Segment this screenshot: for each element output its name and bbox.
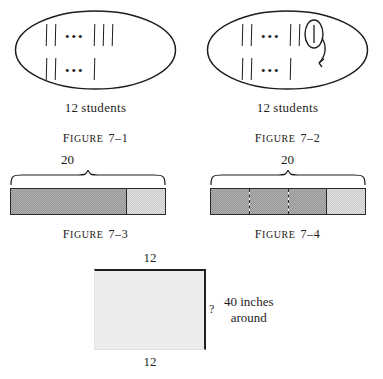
bar-segment-light — [127, 189, 165, 214]
tally-mark — [46, 24, 48, 46]
rect-side-label: ? — [209, 302, 214, 317]
tally-mark — [251, 58, 253, 80]
bar-total-label-4: 20 — [196, 152, 379, 168]
figure-caption-7-1: FIGURE7–1 — [4, 128, 187, 146]
tally-mark — [55, 58, 57, 80]
tally-mark — [93, 58, 95, 80]
perimeter-note: 40 inches around — [224, 294, 273, 326]
ellipse-icon — [4, 6, 187, 94]
figure-7-2: ••• ••• 12students FIGURE7–2 — [196, 2, 379, 152]
ellipsis-dots: ••• — [261, 30, 281, 43]
students-word: students — [273, 100, 318, 115]
caption-number: 7–2 — [301, 131, 321, 145]
bar-rectangle-4 — [210, 188, 366, 215]
figure-caption-7-2: FIGURE7–2 — [196, 128, 379, 146]
caption-initial: F — [255, 131, 262, 145]
perimeter-rectangle-figure: 12 ? 40 inches around 12 — [0, 250, 383, 378]
figure-caption-7-3: FIGURE7–3 — [4, 224, 187, 242]
brace-icon-3 — [10, 170, 166, 186]
caption-initial: F — [255, 227, 262, 241]
tally-mark — [46, 58, 48, 80]
ellipsis-dots: ••• — [65, 30, 85, 43]
perimeter-note-line1: 40 inches — [224, 294, 273, 310]
ellipse-icon — [196, 6, 379, 94]
tally-row-bottom-1: ••• — [42, 58, 99, 80]
bar-segment-light — [327, 189, 365, 214]
tally-mark — [111, 24, 113, 46]
caption-smallcaps: IGURE — [262, 133, 296, 144]
caption-initial: F — [63, 227, 70, 241]
students-label-2: 12students — [196, 100, 379, 116]
students-label-1: 12students — [4, 100, 187, 116]
tally-mark — [242, 24, 244, 46]
tally-mark — [242, 58, 244, 80]
tally-mark — [102, 24, 104, 46]
ellipsis-dots: ••• — [65, 64, 85, 77]
tally-row-top-1: ••• — [42, 24, 117, 46]
textbook-figure-page: ••• ••• 12students FIGURE7–1 — [0, 0, 383, 379]
rect-shape — [94, 269, 206, 350]
caption-number: 7–3 — [109, 227, 129, 241]
perimeter-note-line2: around — [224, 310, 273, 326]
tally-mark — [93, 24, 95, 46]
bar-segment-dark — [11, 189, 126, 214]
ellipse-outline-1 — [4, 6, 187, 94]
caption-number: 7–4 — [301, 227, 321, 241]
caption-number: 7–1 — [109, 131, 129, 145]
caption-smallcaps: IGURE — [70, 229, 104, 240]
students-count: 12 — [65, 100, 79, 115]
caption-smallcaps: IGURE — [70, 133, 104, 144]
tally-mark — [55, 24, 57, 46]
circled-tally-with-arrow — [300, 16, 342, 72]
figure-7-4: 20 FIGURE7–4 — [196, 152, 379, 252]
bar-segment-dark — [289, 189, 327, 214]
tally-row-top-2: ••• — [238, 24, 304, 46]
figure-caption-7-4: FIGURE7–4 — [196, 224, 379, 242]
students-count: 12 — [257, 100, 271, 115]
figure-7-1: ••• ••• 12students FIGURE7–1 — [4, 2, 187, 152]
students-word: students — [81, 100, 126, 115]
caption-initial: F — [63, 131, 70, 145]
rect-bottom-label: 12 — [94, 354, 206, 370]
ellipse-outline-2 — [196, 6, 379, 94]
tally-mark — [289, 24, 291, 46]
ellipsis-dots: ••• — [261, 64, 281, 77]
bar-total-label-3: 20 — [0, 152, 159, 168]
tally-mark — [289, 58, 291, 80]
bar-segment-dark — [250, 189, 288, 214]
bar-rectangle-3 — [10, 188, 166, 215]
rect-top-label: 12 — [94, 250, 206, 266]
tally-mark — [251, 24, 253, 46]
caption-smallcaps: IGURE — [262, 229, 296, 240]
bar-segment-dark — [211, 189, 249, 214]
brace-icon-4 — [210, 170, 366, 186]
tally-row-bottom-2: ••• — [238, 58, 295, 80]
figure-7-3: 20 FIGURE7–3 — [4, 152, 187, 252]
